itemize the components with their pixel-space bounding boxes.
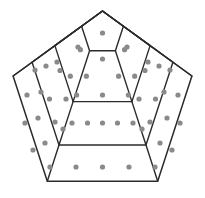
lattice-dot [85,120,90,125]
lattice-dot [152,164,157,169]
lattice-dot [164,115,169,120]
lattice-dot [63,96,68,101]
lattice-dot [30,147,35,152]
lattice-dot [73,164,78,169]
lattice-dot [100,56,105,61]
lattice-dot [115,120,120,125]
lattice-dot [116,74,121,79]
lattice-dot [126,92,131,97]
lattice-dot [24,92,29,97]
lattice-dot [100,120,105,125]
lattice-dot [145,59,150,64]
lattice-dot [69,120,74,125]
lattice-dot [57,68,62,73]
lattice-dot [126,164,131,169]
lattice-dot [100,30,105,35]
lattice-dot [43,63,48,68]
lattice-dot [47,164,52,169]
lattice-dot [157,140,162,145]
lattice-dot [156,63,161,68]
lattice-dot [22,120,27,125]
lattice-dot [42,140,47,145]
lattice-dot [153,96,158,101]
lattice-dot [68,74,73,79]
lattice-dot [177,120,182,125]
lattice-dot [35,115,40,120]
lattice-dot [167,67,172,72]
lattice-dot [74,92,79,97]
lattice-dot [169,147,174,152]
lattice-dot [32,67,37,72]
pentagon-lattice-figure [0,0,205,198]
lattice-dot [132,74,137,79]
lattice-dot [124,44,129,49]
radial-spoke-line [47,145,59,181]
lattice-dot [38,89,43,94]
lattice-dot [75,44,80,49]
lattice-dot [139,126,144,131]
pentagon-lattice-svg [0,0,205,198]
lattice-dot [142,68,147,73]
lattice-dot [54,59,59,64]
lattice-dot [60,126,65,131]
lattice-dot [84,74,89,79]
lattice-dot [136,96,141,101]
lattice-dot [47,96,52,101]
lattice-dot [161,89,166,94]
radial-spoke-line [146,145,158,181]
lattice-dot [100,92,105,97]
lattice-dot [175,92,180,97]
lattice-dot [52,119,57,124]
pentagon-ring-2 [55,11,150,102]
lattice-dot [147,119,152,124]
lattice-dot [130,120,135,125]
lattice-dot [100,164,105,169]
